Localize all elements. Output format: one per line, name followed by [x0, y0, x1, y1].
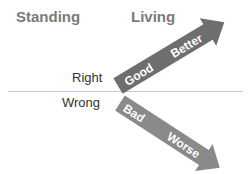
arrows-diagram: Good Better Bad Worse [0, 0, 249, 174]
down-arrow: Bad Worse [111, 90, 228, 174]
up-arrow: Good Better [110, 8, 233, 99]
